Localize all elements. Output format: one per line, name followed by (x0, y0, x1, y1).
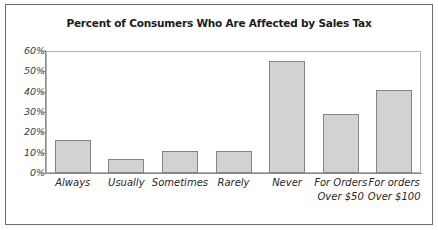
bar (216, 151, 252, 173)
x-axis-line (45, 173, 422, 174)
y-axis-tick-label: 10% (11, 147, 45, 158)
bar (323, 114, 359, 173)
x-axis-tick-labels: AlwaysUsuallySometimesRarelyNeverFor Ord… (46, 176, 421, 224)
x-axis-tick-label-line: Rarely (217, 177, 249, 188)
bar (269, 61, 305, 173)
x-axis-tick-label-line: Sometimes (152, 177, 208, 188)
bar (162, 151, 198, 173)
x-axis-tick-label-line: Over $100 (361, 190, 427, 204)
chart-figure: Percent of Consumers Who Are Affected by… (0, 0, 438, 230)
y-axis-tick-label: 60% (11, 45, 45, 56)
x-axis-tick-label-line: For orders (369, 177, 420, 188)
bar (376, 90, 412, 173)
x-axis-tick-label-line: For Orders (314, 177, 367, 188)
y-axis-tick-label: 50% (11, 65, 45, 76)
bar (108, 159, 144, 173)
bar (55, 140, 91, 173)
bar-series (46, 51, 421, 173)
x-axis-tick-label-line: Always (55, 177, 90, 188)
x-axis-tick-label-line: Usually (108, 177, 144, 188)
y-axis-tick-label: 30% (11, 106, 45, 117)
x-axis-tick-label-line: Never (272, 177, 302, 188)
chart-title: Percent of Consumers Who Are Affected by… (0, 17, 438, 29)
y-axis-tick-label: 40% (11, 86, 45, 97)
y-axis-tick-labels: 0%10%20%30%40%50%60% (0, 0, 45, 230)
y-axis-tick-label: 20% (11, 126, 45, 137)
x-axis-tick-label: For ordersOver $100 (361, 176, 427, 204)
